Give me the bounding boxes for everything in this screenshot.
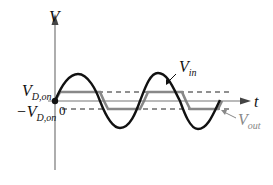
zero-label: 0 [59, 103, 66, 118]
origin-dot [52, 98, 58, 104]
t-axis-label: t [254, 93, 259, 110]
vout-label: Vout [238, 111, 261, 131]
t-axis-arrow-icon [240, 98, 251, 105]
vin-label: Vin [179, 58, 197, 78]
waveform-plot: V t VD,on −VD,on 0 Vin Vout [0, 0, 273, 185]
y-axis-label: V [49, 7, 62, 26]
neg-vdon-label: −VD,on [16, 103, 56, 123]
vdon-label: VD,on [22, 82, 52, 102]
diode-clipper-waveform-diagram: V t VD,on −VD,on 0 Vin Vout [0, 0, 273, 185]
vin-pointer [168, 74, 176, 82]
